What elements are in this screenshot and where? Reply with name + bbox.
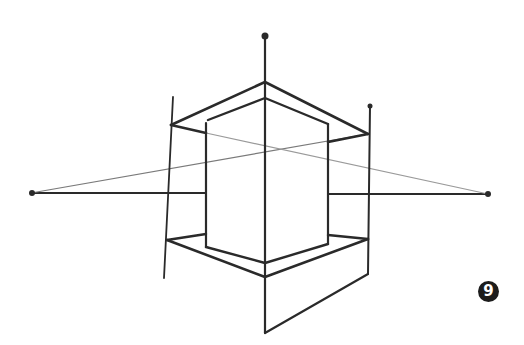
left-outer-vertical — [164, 97, 173, 278]
right-diagonal-guide — [206, 133, 488, 194]
right-outer-vertical — [368, 106, 370, 274]
left-diagonal-guide — [31, 134, 368, 193]
lower-diagonal — [265, 274, 368, 333]
right-vanishing-point — [485, 191, 491, 197]
left-vanishing-point — [29, 190, 35, 196]
outer-roof — [171, 82, 368, 134]
step-number-badge: 9 — [478, 281, 499, 302]
top-vanishing-point — [262, 33, 269, 40]
perspective-drawing — [0, 0, 524, 345]
outer-base — [167, 239, 368, 277]
box-top — [208, 98, 328, 124]
right-vertical-dot — [368, 104, 373, 109]
